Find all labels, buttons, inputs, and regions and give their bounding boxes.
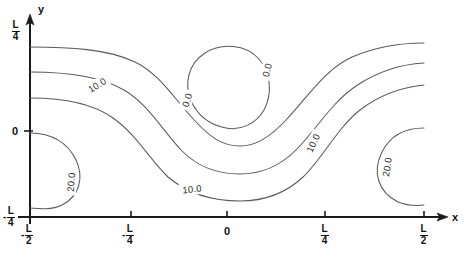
y-tick-neg-quarter-denominator: 4	[7, 218, 15, 229]
x-tick-label-pos-quarter: L 4	[320, 224, 329, 246]
contour-plot-figure: y x 0 0 10.0	[0, 0, 464, 276]
x-tick-label-zero: 0	[224, 225, 230, 237]
plot-canvas: y x 0 0 10.0	[0, 0, 464, 276]
contour-lines-group	[30, 43, 424, 209]
contour-label-20-left: 20.0	[65, 172, 78, 192]
y-tick-label-pos-quarter: L 4	[11, 20, 20, 42]
y-tick-label-neg-quarter: - L 4	[3, 206, 15, 228]
x-tick-neg-quarter-denominator: 4	[126, 236, 134, 247]
y-tick-neg-quarter-sign: -	[3, 212, 6, 222]
x-tick-label-neg-half: - L 2	[21, 224, 33, 246]
contour-label-0-loop-right: 0.0	[260, 62, 274, 78]
contour-line-0-closed-loop	[188, 46, 270, 128]
x-axis-label: x	[452, 211, 459, 223]
y-tick-neg-quarter-numerator: L	[7, 206, 15, 218]
contour-label-10-bottom: 10.0	[182, 183, 202, 196]
x-tick-neg-quarter-numerator: L	[126, 224, 134, 236]
x-tick-neg-half-sign: -	[21, 230, 24, 240]
axis-group	[18, 14, 448, 224]
contour-line-10-upper	[30, 63, 424, 174]
x-tick-neg-quarter-sign: -	[122, 230, 125, 240]
y-tick-label-zero: 0	[12, 125, 18, 137]
x-tick-pos-half-numerator: L	[420, 224, 428, 236]
x-tick-neg-half-numerator: L	[25, 224, 33, 236]
y-axis-label: y	[38, 3, 45, 15]
y-tick-pos-quarter-numerator: L	[12, 20, 20, 32]
x-tick-pos-quarter-numerator: L	[321, 224, 329, 236]
x-tick-label-pos-half: L 2	[419, 224, 428, 246]
x-tick-label-neg-quarter: - L 4	[122, 224, 134, 246]
x-tick-pos-quarter-denominator: 4	[321, 236, 329, 247]
contour-labels-group: 10.0 0.0 0.0 10.0 10.0 20.0	[64, 59, 395, 196]
x-tick-pos-half-denominator: 2	[420, 236, 428, 247]
x-tick-neg-half-denominator: 2	[25, 236, 33, 247]
contour-line-10-lower	[30, 85, 424, 201]
y-tick-pos-quarter-denominator: 4	[12, 32, 20, 43]
